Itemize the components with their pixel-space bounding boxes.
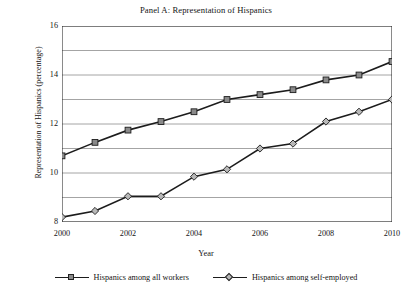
y-tick-label: 16 [36, 21, 58, 30]
legend-label-self-employed: Hispanics among self-employed [252, 273, 358, 282]
x-tick-label: 2004 [174, 229, 214, 238]
legend-label-all-workers: Hispanics among all workers [94, 273, 189, 282]
data-point-marker-square [323, 77, 329, 83]
data-point-marker-square [191, 109, 197, 115]
legend-entry-self-employed: Hispanics among self-employed [213, 272, 358, 282]
legend-swatch-square-icon [55, 272, 89, 282]
chart-title: Panel A: Representation of Hispanics [0, 5, 412, 15]
chart-figure: Panel A: Representation of Hispanics Rep… [0, 0, 412, 299]
data-point-marker-square [92, 139, 98, 145]
data-point-marker-square [62, 153, 65, 159]
x-tick-label: 2010 [372, 229, 412, 238]
data-point-marker-diamond [62, 214, 66, 221]
data-point-marker-diamond [388, 96, 392, 103]
legend-swatch-diamond-icon [213, 272, 247, 282]
data-point-marker-diamond [157, 193, 164, 200]
data-point-marker-diamond [91, 207, 98, 214]
series-line-self-employed [62, 100, 392, 218]
x-tick-label: 2006 [240, 229, 280, 238]
series-line-all-workers [62, 62, 392, 156]
data-point-marker-square [356, 72, 362, 78]
legend-entry-all-workers: Hispanics among all workers [55, 272, 189, 282]
x-axis-tick-labels: 200020022004200620082010 [62, 226, 392, 242]
y-tick-label: 12 [36, 119, 58, 128]
data-point-marker-diamond [124, 193, 131, 200]
y-axis-tick-labels: 810121416 [36, 26, 58, 222]
data-point-marker-square [290, 87, 296, 93]
x-tick-label: 2000 [42, 229, 82, 238]
chart-legend: Hispanics among all workers Hispanics am… [0, 272, 412, 282]
plot-area [62, 26, 392, 222]
y-tick-label: 8 [36, 217, 58, 226]
y-tick-label: 14 [36, 70, 58, 79]
data-point-marker-diamond [190, 173, 197, 180]
data-point-marker-square [158, 119, 164, 125]
data-point-marker-square [125, 127, 131, 133]
data-point-marker-square [389, 59, 392, 65]
x-tick-label: 2008 [306, 229, 346, 238]
y-tick-label: 10 [36, 168, 58, 177]
x-axis-label: Year [0, 249, 412, 258]
data-point-marker-diamond [355, 108, 362, 115]
data-point-marker-square [224, 97, 230, 103]
chart-canvas [62, 26, 392, 222]
data-point-marker-square [257, 92, 263, 98]
x-tick-label: 2002 [108, 229, 148, 238]
